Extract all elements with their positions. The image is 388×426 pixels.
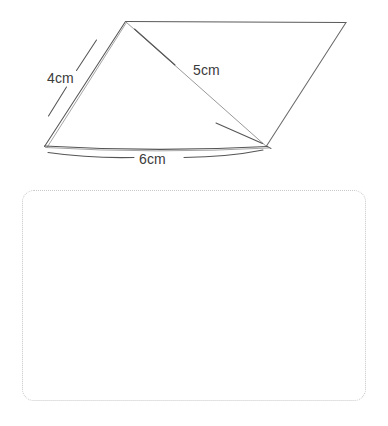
tick-4cm-upper bbox=[77, 40, 97, 71]
edge-top bbox=[126, 22, 347, 23]
label-side-4cm: 4cm bbox=[47, 71, 74, 85]
label-side-5cm: 5cm bbox=[193, 63, 220, 77]
tick-6cm-left bbox=[48, 153, 134, 158]
tick-4cm-lower bbox=[49, 87, 67, 116]
answer-box[interactable] bbox=[22, 190, 366, 401]
tick-6cm-right bbox=[184, 150, 263, 158]
edge-right bbox=[267, 23, 347, 147]
geometry-figure bbox=[0, 0, 388, 180]
shape-outline bbox=[45, 22, 347, 151]
label-side-6cm: 6cm bbox=[139, 152, 166, 166]
figure-page: 4cm 5cm 6cm bbox=[0, 0, 388, 426]
measure-marks bbox=[48, 29, 263, 158]
tick-5cm-lower bbox=[216, 123, 263, 144]
tick-5cm-upper bbox=[135, 29, 176, 65]
